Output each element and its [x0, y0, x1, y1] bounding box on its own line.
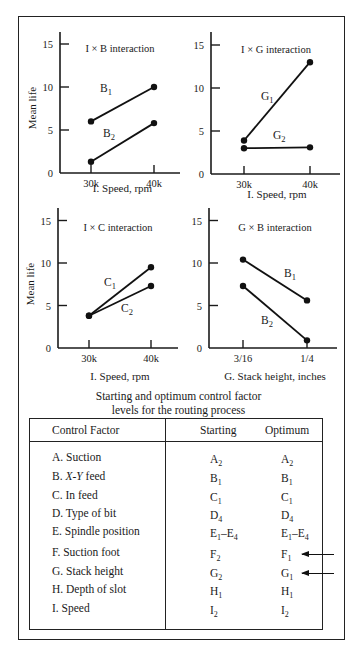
y-tick-label: 0 [197, 343, 202, 354]
data-point [304, 297, 310, 303]
arrow-left-icon [302, 573, 334, 574]
y-tick-label: 5 [48, 125, 53, 136]
table-caption-line-2: levels for the routing process [0, 403, 357, 417]
chart-title: G × B interaction [238, 222, 312, 233]
interaction-plots: 05101530k40kI. Speed, rpmMean lifeI × B … [0, 0, 357, 400]
y-tick-label: 10 [192, 258, 203, 269]
series-label-c1: C1 [104, 276, 116, 291]
starting-level: I2 [210, 604, 218, 616]
x-axis-label: I. Speed, rpm [93, 182, 153, 194]
control-factor-table: Control Factor Starting Optimum A. Sucti… [29, 418, 323, 630]
table-row: H. Depth of slotH1H1 [30, 583, 322, 601]
data-point [148, 283, 154, 289]
starting-level: B1 [210, 472, 222, 484]
series-line-g2 [244, 147, 310, 148]
y-axis-label: Mean life [24, 263, 36, 306]
optimum-level: A2 [281, 453, 293, 465]
data-point [241, 145, 247, 151]
starting-level: F2 [210, 548, 220, 560]
series-label-b2: B2 [261, 314, 273, 329]
control-factor-name: B. X-Y feed [52, 470, 105, 482]
y-tick-label: 15 [192, 216, 203, 227]
data-point [307, 144, 313, 150]
y-tick-label: 5 [46, 301, 51, 312]
optimum-level: D4 [281, 509, 293, 521]
data-point [240, 283, 246, 289]
x-axis-label: G. Stack height, inches [224, 370, 326, 382]
chart-panel-g-x-b: 0510153/161/4G. Stack height, inchesG × … [192, 208, 338, 382]
starting-level: E1–E4 [210, 527, 238, 539]
starting-level: C1 [210, 491, 222, 503]
optimum-level: B1 [281, 472, 293, 484]
series-line-c2 [89, 267, 151, 315]
optimum-level: E1–E4 [281, 527, 309, 539]
series-label-g1: G1 [261, 90, 274, 105]
starting-level: A2 [210, 453, 222, 465]
table-row: B. X-Y feedB1B1 [30, 470, 322, 488]
series-label-c2: C2 [121, 302, 133, 317]
x-axis-label: I. Speed, rpm [90, 370, 150, 382]
series-label-g2: G2 [273, 129, 286, 144]
chart-title: I × B interaction [85, 43, 155, 54]
series-label-b1: B1 [100, 82, 112, 97]
data-point [88, 118, 94, 124]
y-tick-label: 0 [48, 168, 53, 179]
data-point [148, 264, 154, 270]
table-row: F. Suction footF2F1 [30, 546, 322, 564]
control-factor-name: H. Depth of slot [52, 583, 126, 595]
header-starting: Starting [200, 424, 236, 436]
control-factor-name: E. Spindle position [52, 525, 140, 537]
control-factor-name: G. Stack height [52, 565, 123, 577]
table-row: I. SpeedI2I2 [30, 602, 322, 620]
optimum-level: G1 [281, 567, 293, 579]
x-axis-label: I. Speed, rpm [247, 188, 307, 200]
starting-level: D4 [210, 509, 222, 521]
series-label-b1: B1 [284, 267, 296, 282]
chart-panel-i-x-b: 05101530k40kI. Speed, rpmMean lifeI × B … [26, 32, 180, 194]
chart-panel-i-x-g: 05101530k40kI. Speed, rpmI × G interacti… [194, 32, 341, 200]
optimum-level: H1 [281, 585, 293, 597]
y-tick-label: 10 [43, 82, 54, 93]
y-axis-label: Mean life [26, 87, 38, 130]
data-point [307, 59, 313, 65]
starting-level: G2 [210, 567, 222, 579]
data-point [151, 120, 157, 126]
control-factor-name: C. In feed [52, 489, 98, 501]
data-point [86, 313, 92, 319]
starting-level: H1 [210, 585, 222, 597]
optimum-level: I2 [281, 604, 289, 616]
header-control-factor: Control Factor [52, 424, 119, 436]
table-caption-line-1: Starting and optimum control factor [0, 389, 357, 403]
table-row: A. SuctionA2A2 [30, 451, 322, 469]
x-tick-label: 40k [143, 353, 160, 364]
y-tick-label: 5 [199, 126, 204, 137]
y-tick-label: 0 [46, 343, 51, 354]
y-tick-label: 15 [194, 40, 205, 51]
series-line-b2 [91, 123, 154, 162]
header-optimum: Optimum [265, 424, 309, 436]
optimum-level: C1 [281, 491, 293, 503]
x-tick-label: 1/4 [300, 353, 314, 364]
data-point [304, 337, 310, 343]
y-tick-label: 10 [194, 83, 205, 94]
table-row: D. Type of bitD4D4 [30, 507, 322, 525]
control-factor-name: A. Suction [52, 451, 101, 463]
y-tick-label: 10 [41, 258, 52, 269]
y-tick-label: 0 [199, 169, 204, 180]
control-factor-name: D. Type of bit [52, 507, 116, 519]
chart-panel-i-x-c: 05101530k40kI. Speed, rpmMean lifeI × C … [24, 208, 178, 382]
control-factor-name: I. Speed [52, 602, 90, 614]
data-point [241, 137, 247, 143]
data-point [151, 84, 157, 90]
table-row: C. In feedC1C1 [30, 489, 322, 507]
chart-title: I × C interaction [83, 222, 153, 233]
series-label-b2: B2 [103, 127, 115, 142]
x-tick-label: 30k [81, 353, 98, 364]
y-tick-label: 15 [41, 216, 52, 227]
table-header-separator [30, 441, 322, 442]
data-point [240, 256, 246, 262]
arrow-left-icon [302, 554, 334, 555]
data-point [88, 159, 94, 165]
y-tick-label: 15 [43, 39, 54, 50]
table-row: G. Stack heightG2G1 [30, 565, 322, 583]
